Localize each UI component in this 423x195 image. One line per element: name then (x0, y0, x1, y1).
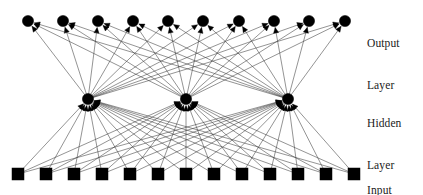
input-layer-nodes (12, 168, 360, 180)
edges-hidden-to-output (32, 22, 341, 99)
edges-input-to-hidden (18, 100, 354, 174)
output-layer-label-line1: Output (367, 36, 400, 50)
network-canvas (0, 0, 423, 195)
input-layer-label: Input Layer (367, 155, 394, 195)
hidden-layer-label-line1: Hidden (367, 116, 401, 130)
input-layer-label-line1: Input (367, 183, 394, 195)
neural-network-figure: Output Layer Hidden Layer Input Layer (0, 0, 423, 195)
hidden-layer-nodes (82, 93, 293, 104)
